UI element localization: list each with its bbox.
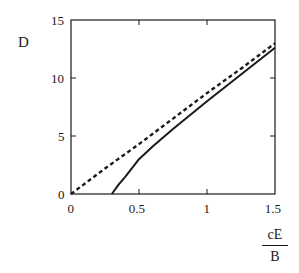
data-series <box>71 43 275 194</box>
axis-ticks <box>71 20 275 194</box>
y-tick-label: 0 <box>58 188 65 201</box>
x-tick-label: 1 <box>204 202 211 215</box>
x-axis-label-numerator: cE <box>262 227 288 246</box>
x-tick-label: 0 <box>68 202 75 215</box>
y-tick-label: 10 <box>51 72 64 85</box>
x-tick-label: 1.5 <box>265 202 281 215</box>
x-axis-label: cE B <box>262 227 288 265</box>
x-axis-label-denominator: B <box>262 246 288 265</box>
plot-area <box>0 0 299 273</box>
y-tick-label: 5 <box>58 130 65 143</box>
y-axis-label: D <box>18 34 29 51</box>
y-tick-label: 15 <box>51 14 64 27</box>
solid-line <box>112 48 275 194</box>
axes-frame <box>71 20 275 194</box>
dashed-line <box>71 43 275 194</box>
x-tick-label: 0.5 <box>129 202 145 215</box>
